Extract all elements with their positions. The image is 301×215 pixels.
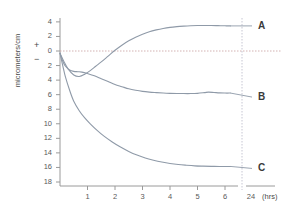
y-axis-ticks	[56, 22, 60, 182]
chart-container: micrometers/cm + − 42024681012141618 123…	[0, 0, 301, 215]
leader-line-c	[231, 166, 253, 168]
y-tick-label: 14	[38, 149, 52, 157]
series-leader-lines	[231, 26, 253, 169]
y-tick-label: 10	[38, 120, 52, 128]
y-tick-label: 6	[38, 91, 52, 99]
leader-line-b	[231, 93, 253, 97]
y-axis-title: micrometers/cm	[13, 16, 22, 106]
y-tick-label: 0	[38, 47, 52, 55]
y-tick-label: 2	[38, 62, 52, 70]
x-tick-label: 6	[218, 193, 232, 201]
x-tick-label: 4	[163, 193, 177, 201]
x-tick-label-break: 24	[244, 193, 258, 201]
y-tick-label: 18	[38, 178, 52, 186]
y-tick-label: 4	[38, 18, 52, 26]
series-label-a: A	[258, 21, 265, 31]
data-line-b	[60, 53, 231, 93]
x-axis-unit-label: (hrs)	[262, 193, 277, 201]
data-series-group	[60, 26, 231, 167]
y-tick-label: 2	[38, 32, 52, 40]
x-axis-ticks	[88, 186, 226, 190]
series-label-b: B	[258, 92, 265, 102]
x-tick-label: 3	[136, 193, 150, 201]
y-tick-label: 16	[38, 163, 52, 171]
series-label-c: C	[258, 163, 265, 173]
y-tick-label: 12	[38, 134, 52, 142]
x-tick-label: 5	[191, 193, 205, 201]
y-tick-label: 4	[38, 76, 52, 84]
y-tick-label: 8	[38, 105, 52, 113]
data-line-c	[60, 53, 231, 166]
x-tick-label: 1	[81, 193, 95, 201]
x-tick-label: 2	[108, 193, 122, 201]
